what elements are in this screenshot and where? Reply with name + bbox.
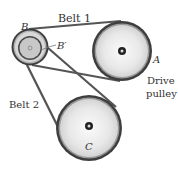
pulley-b-prime xyxy=(18,36,42,60)
label-belt-2: Belt 2 xyxy=(9,99,39,110)
label-pulley: pulley xyxy=(146,88,177,99)
label-pulley-b: B xyxy=(20,21,28,32)
belt-pulley-diagram: Belt 1 B B′ A Drive pulley Belt 2 C xyxy=(0,0,178,175)
label-drive: Drive xyxy=(147,75,175,86)
label-belt-1: Belt 1 xyxy=(58,12,91,25)
label-pulley-b-prime: B′ xyxy=(56,40,67,51)
label-pulley-c: C xyxy=(85,141,93,152)
label-pulley-a: A xyxy=(152,54,160,65)
pulley-a xyxy=(92,21,152,81)
